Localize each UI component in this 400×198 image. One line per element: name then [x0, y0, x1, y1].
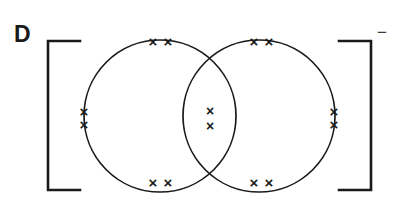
- electron-cross-mark: ×: [265, 174, 274, 191]
- electron-cross-mark: ×: [330, 116, 339, 133]
- left-circle-top-pair: ××: [149, 33, 173, 50]
- right-circle-bottom-pair: ××: [250, 174, 274, 191]
- lewis-structure-figure: ×××××××××××××× D −: [0, 0, 400, 198]
- left-circle-left-pair: ××: [80, 103, 89, 133]
- electron-marks-group: ××××××××××××××: [80, 33, 339, 191]
- electron-cross-mark: ×: [149, 33, 158, 50]
- electron-cross-mark: ×: [250, 33, 259, 50]
- left-bracket-stroke: [48, 41, 80, 190]
- electron-cross-mark: ×: [206, 103, 214, 119]
- left-circle-bottom-pair: ××: [149, 174, 173, 191]
- electron-cross-mark: ×: [164, 33, 173, 50]
- right-bracket-stroke: [339, 41, 371, 190]
- bonding-diagram-canvas: ××××××××××××××: [0, 0, 400, 198]
- shared-overlap-pair: ××: [206, 103, 214, 134]
- panel-label: D: [14, 23, 31, 46]
- electron-cross-mark: ×: [80, 116, 89, 133]
- electron-cross-mark: ×: [206, 118, 214, 134]
- electron-cross-mark: ×: [250, 174, 259, 191]
- right-bracket: [339, 41, 371, 190]
- charge-superscript-label: −: [377, 24, 387, 41]
- electron-cross-mark: ×: [164, 174, 173, 191]
- electron-cross-mark: ×: [149, 174, 158, 191]
- left-bracket: [48, 41, 80, 190]
- electron-cross-mark: ×: [265, 33, 274, 50]
- right-circle-right-pair: ××: [330, 103, 339, 133]
- right-circle-top-pair: ××: [250, 33, 274, 50]
